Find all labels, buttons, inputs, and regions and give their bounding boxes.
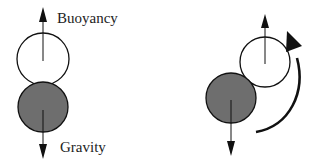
gravity-label: Gravity bbox=[60, 139, 106, 155]
buoyancy-gravity-diagram: Buoyancy Gravity bbox=[0, 0, 330, 168]
left-figure: Buoyancy Gravity bbox=[17, 7, 118, 159]
buoyancy-label: Buoyancy bbox=[57, 10, 118, 26]
right-figure bbox=[206, 14, 302, 156]
diagram-canvas: Buoyancy Gravity bbox=[0, 0, 330, 168]
